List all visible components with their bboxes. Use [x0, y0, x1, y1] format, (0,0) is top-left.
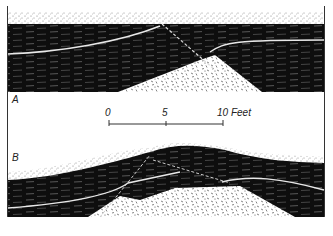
- panel-a-surface-layer: [8, 12, 324, 24]
- panel-a: [8, 12, 324, 92]
- panel-b: [8, 143, 324, 217]
- panel-b-label: B: [12, 152, 19, 163]
- scale-tick-10: 10 Feet: [217, 107, 251, 118]
- scale-tick-0: 0: [105, 107, 111, 118]
- panel-a-label: A: [12, 94, 19, 105]
- geologic-cross-sections: [0, 0, 333, 236]
- scale-tick-5: 5: [162, 107, 168, 118]
- scale-bar: [109, 120, 223, 126]
